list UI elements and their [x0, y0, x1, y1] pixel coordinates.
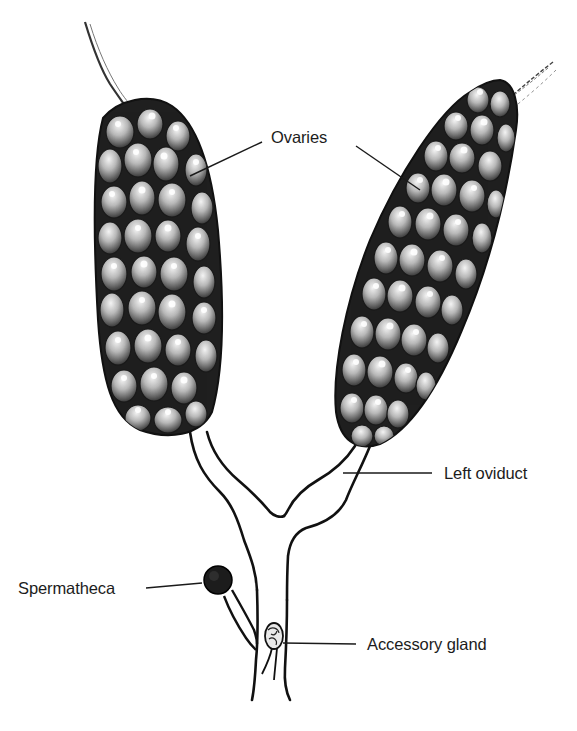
ovaries-label: Ovaries — [271, 129, 327, 146]
spermatheca-label: Spermatheca — [18, 580, 115, 597]
right-ovary — [335, 80, 517, 447]
left-oviduct-inner — [284, 446, 355, 516]
spermatheca — [204, 566, 257, 650]
left-oviduct-label: Left oviduct — [444, 465, 527, 482]
leader-accessory-gland — [283, 643, 356, 644]
leader-spermatheca — [146, 583, 202, 588]
reproductive-system-illustration — [0, 0, 577, 731]
left-ovary — [95, 99, 222, 435]
accessory-gland-label: Accessory gland — [367, 636, 487, 653]
left-ovary-filament — [85, 22, 134, 110]
accessory-gland — [262, 623, 283, 680]
left-lateral-oviduct-inner — [207, 432, 284, 517]
diagram-canvas: Ovaries Left oviduct Spermatheca Accesso… — [0, 0, 577, 731]
left-oviduct-outer — [287, 446, 370, 600]
common-oviduct-right-wall — [285, 600, 290, 700]
left-lateral-oviduct-outer — [190, 432, 257, 590]
